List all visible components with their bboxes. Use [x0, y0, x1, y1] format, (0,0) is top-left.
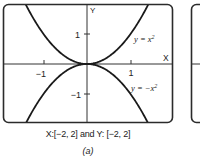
panel-label: (a): [0, 146, 176, 156]
y-tick-label-neg1: −1: [71, 90, 81, 100]
x-axis-label: X: [163, 53, 169, 63]
svg-text:y = −x2: y = −x2: [130, 83, 157, 94]
x-tick-label-pos1: 1: [128, 68, 133, 78]
annotation-upper: y = x2: [133, 34, 155, 45]
svg-text:y = x2: y = x2: [133, 34, 155, 45]
y-axis-label: Y: [90, 6, 96, 15]
y-tick-label-pos1: 1: [75, 30, 80, 40]
window-caption: X:[−2, 2] and Y: [−2, 2]: [0, 129, 176, 139]
x-tick-label-neg1: −1: [36, 69, 46, 79]
annotation-lower: y = −x2: [130, 83, 157, 94]
